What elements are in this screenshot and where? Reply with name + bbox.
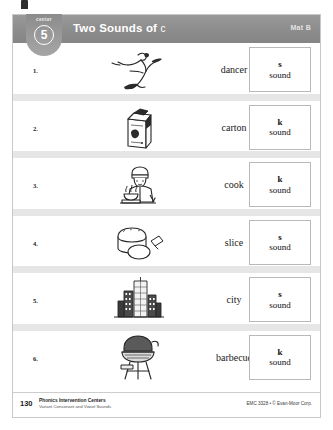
page-title: Two Sounds of c — [73, 22, 166, 34]
answer-word: sound — [269, 127, 291, 137]
row-number: 4. — [33, 240, 38, 247]
answer-letter: k — [277, 117, 282, 127]
worksheet-header: center 5 Two Sounds of c Mat B — [13, 15, 320, 43]
barbecue-grill-icon — [95, 333, 181, 383]
footer-credit: EMC 3328 • © Evan-Moor Corp. — [246, 401, 312, 406]
row-number: 6. — [33, 355, 38, 362]
worksheet-page: center 5 Two Sounds of c Mat B 1. — [0, 0, 333, 430]
answer-word: sound — [269, 242, 291, 252]
row-divider — [13, 94, 320, 101]
center-badge-number: 5 — [34, 25, 54, 45]
footer-book-info: Phonics Intervention Centers Variant Con… — [39, 398, 111, 409]
row-divider — [13, 151, 320, 158]
page-number: 130 — [20, 399, 33, 408]
answer-box[interactable]: k sound — [249, 162, 311, 207]
page-edge-artifact — [21, 0, 28, 9]
page-title-text: Two Sounds of — [73, 22, 157, 34]
table-row: 1. — [13, 43, 320, 101]
table-row: 6. — [13, 331, 320, 389]
ballet-dancer-icon — [95, 45, 181, 95]
answer-box[interactable]: k sound — [249, 335, 311, 380]
table-row: 2. — [13, 101, 320, 159]
answer-letter: k — [277, 347, 282, 357]
row-number: 2. — [33, 125, 38, 132]
answer-word: sound — [269, 300, 291, 310]
row-divider — [13, 266, 320, 273]
answer-letter: s — [278, 59, 282, 69]
table-row: 3. — [13, 158, 320, 216]
answer-word: sound — [269, 185, 291, 195]
city-buildings-icon — [95, 275, 181, 325]
bread-slice-icon — [95, 218, 181, 268]
center-badge-label: center — [36, 18, 52, 23]
answer-word: sound — [269, 70, 291, 80]
row-number: 1. — [33, 67, 38, 74]
answer-box[interactable]: s sound — [249, 277, 311, 322]
table-row: 4. — [13, 216, 320, 274]
answer-letter: s — [278, 232, 282, 242]
table-row: 5. — [13, 273, 320, 331]
answer-letter: k — [277, 174, 282, 184]
row-number: 3. — [33, 182, 38, 189]
row-divider — [13, 324, 320, 331]
footer-book-subtitle: Variant Consonant and Vowel Sounds — [39, 404, 111, 409]
mat-label: Mat B — [290, 24, 311, 31]
milk-carton-icon — [95, 103, 181, 153]
row-number: 5. — [33, 297, 38, 304]
answer-word: sound — [269, 357, 291, 367]
chef-cook-icon — [95, 160, 181, 210]
answer-box[interactable]: s sound — [249, 220, 311, 265]
worksheet-sheet: center 5 Two Sounds of c Mat B 1. — [12, 14, 321, 418]
answer-letter: s — [278, 289, 282, 299]
exercise-rows: 1. — [13, 43, 320, 388]
answer-box[interactable]: s sound — [249, 47, 311, 92]
row-divider — [13, 209, 320, 216]
worksheet-footer: 130 Phonics Intervention Centers Variant… — [13, 392, 320, 417]
answer-box[interactable]: k sound — [249, 105, 311, 150]
page-title-letter: c — [161, 23, 166, 34]
